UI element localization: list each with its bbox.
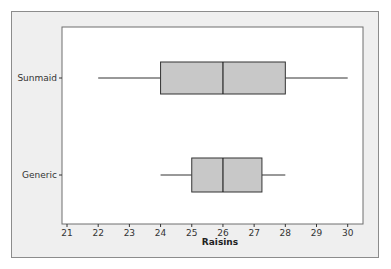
x-tick-label: 21 [61,228,72,238]
x-tick-label: 27 [248,228,259,238]
plot-area [62,27,363,224]
category-label: Sunmaid [17,73,57,83]
category-label: Generic [22,170,57,180]
x-tick-label: 30 [342,228,354,238]
x-tick-label: 23 [124,228,135,238]
x-tick-label: 28 [280,228,292,238]
x-tick-label: 25 [186,228,197,238]
x-axis: 21222324252627282930 [61,224,353,238]
y-axis: SunmaidGeneric [17,73,62,180]
iqr-box [192,158,262,192]
x-tick-label: 24 [155,228,167,238]
boxplot-chart: 21222324252627282930 SunmaidGeneric Rais… [0,0,391,269]
x-axis-title: Raisins [202,237,238,247]
x-tick-label: 22 [92,228,103,238]
x-tick-label: 29 [311,228,323,238]
